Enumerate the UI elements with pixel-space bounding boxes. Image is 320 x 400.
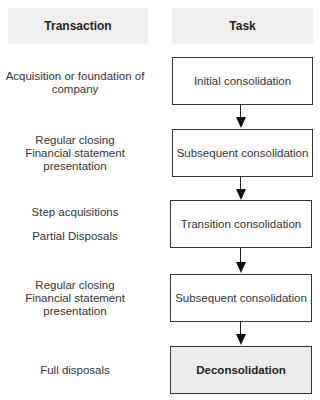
arrow-down-icon (236, 262, 246, 273)
task-box-subsequent-consolidation-1: Subsequent consolidation (172, 129, 313, 177)
header-task: Task (172, 8, 313, 44)
transaction-label-3: Step acquisitions Partial Disposals (0, 206, 150, 242)
label-line: company (0, 83, 150, 96)
transaction-label-4: Regular closing Financial statement pres… (0, 279, 150, 318)
label-line: Acquisition or foundation of (0, 70, 150, 83)
arrow-down-icon (236, 334, 246, 345)
transaction-label-2: Regular closing Financial statement pres… (0, 134, 150, 173)
header-transaction: Transaction (8, 8, 148, 44)
transaction-label-1: Acquisition or foundation of company (0, 70, 150, 96)
transaction-label-5: Full disposals (0, 364, 150, 377)
arrow-down-icon (236, 117, 246, 128)
label-line: Financial statement (0, 292, 150, 305)
task-box-deconsolidation: Deconsolidation (170, 346, 312, 394)
label-line: presentation (0, 160, 150, 173)
arrow-connector (240, 177, 241, 189)
label-line: Financial statement (0, 147, 150, 160)
task-box-transition-consolidation: Transition consolidation (170, 200, 312, 248)
label-line: Full disposals (0, 364, 150, 377)
arrow-down-icon (236, 189, 246, 200)
task-box-subsequent-consolidation-2: Subsequent consolidation (170, 274, 312, 322)
task-box-initial-consolidation: Initial consolidation (172, 57, 313, 105)
label-line: Regular closing (0, 279, 150, 292)
label-line: Step acquisitions (0, 206, 150, 218)
label-spacer (0, 218, 150, 230)
label-line: Regular closing (0, 134, 150, 147)
arrow-connector (240, 248, 241, 262)
label-line: presentation (0, 305, 150, 318)
label-line: Partial Disposals (0, 230, 150, 242)
